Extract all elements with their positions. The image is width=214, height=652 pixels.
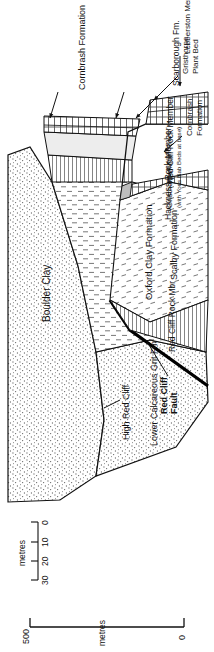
- horizontal-scale-label: metres: [18, 540, 27, 566]
- horizontal-tick-20: 20: [41, 557, 50, 566]
- unit-scalby-formation: [110, 182, 208, 322]
- unit-cornbrash-right: [44, 116, 140, 136]
- label-gristhorpe-note: (with Yons Nab Beds at base): [176, 127, 183, 208]
- vertical-scale-label: metres: [98, 620, 107, 646]
- label-lower-calcareous-grit: Lower Calcareous Grit Fm: [150, 341, 159, 446]
- horizontal-tick-0: 0: [41, 520, 50, 525]
- figure-canvas: 500 0 metres metres 30 20 10 0 High Red …: [0, 0, 214, 652]
- unit-red-cliff-rock-member: [44, 132, 136, 160]
- cross-section-figure: 500 0 metres metres 30 20 10 0 High Red …: [0, 0, 214, 652]
- horizontal-scale-bar: [31, 522, 38, 580]
- leader-cornbrash-b: [116, 92, 124, 118]
- vertical-scale-bottom-value: 0: [178, 635, 187, 640]
- vertical-scale-top-value: 500: [22, 629, 31, 644]
- label-gristhorpe-mbr: Gristhorpe Mbr: [166, 155, 174, 208]
- label-oxford-clay: Oxford Clay Formation: [144, 204, 154, 300]
- horizontal-tick-10: 10: [41, 538, 50, 547]
- label-cornbrash-formation-left-line2: Formation: [196, 100, 204, 136]
- leader-cornbrash-a: [50, 92, 58, 118]
- label-red-cliff-fault-line2: Fault: [170, 393, 179, 415]
- label-scalby-formation: Scalby Formation: [170, 210, 179, 280]
- cross-section-drawing: [0, 0, 214, 652]
- label-scarborough-fm: Scarborough Fm.: [172, 20, 181, 86]
- vertical-scale-bar: [30, 618, 184, 627]
- label-lebberston-member: Lebberston Member (Millepore Bed): [184, 0, 192, 54]
- horizontal-tick-30: 30: [41, 576, 50, 585]
- label-red-cliff-rock-mbr: Red Cliff Rock Mbr: [168, 281, 177, 352]
- label-cornbrash-formation-left-line1: Cornbrash: [186, 99, 194, 136]
- label-high-red-cliff: High Red Cliff: [122, 385, 131, 440]
- label-boulder-clay: Boulder Clay: [42, 265, 53, 322]
- label-gristhorpe-plant-bed-line2: Plant Bed: [192, 39, 200, 74]
- label-cornbrash-formation-right: Cornbrash Formation: [78, 5, 87, 90]
